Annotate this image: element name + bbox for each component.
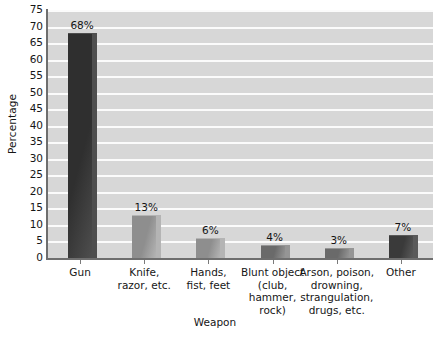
gridline	[48, 60, 433, 62]
gridline	[48, 159, 433, 161]
bar[interactable]	[325, 248, 349, 258]
gridline	[48, 109, 433, 111]
gridline	[48, 43, 433, 45]
x-axis-title: Weapon	[150, 316, 280, 328]
bar-side-face	[285, 250, 290, 258]
y-axis-tick-label: 0	[3, 252, 43, 263]
bar-top-face	[156, 215, 161, 220]
y-axis-tick-label: 25	[3, 169, 43, 180]
bar[interactable]	[132, 215, 156, 258]
gridline	[48, 192, 433, 194]
category-label-line: drugs, etc.	[291, 304, 383, 317]
category-label-line: drowning,	[291, 279, 383, 292]
gridline	[48, 76, 433, 78]
bar-top-face	[92, 33, 97, 38]
x-axis-tick-mark	[144, 260, 145, 264]
bar-value-label: 6%	[180, 225, 240, 236]
bar-value-label: 7%	[373, 222, 433, 233]
gridline	[48, 10, 433, 12]
y-axis-tick-label: 70	[3, 21, 43, 32]
bar-value-label: 4%	[245, 232, 305, 243]
x-axis-tick-mark	[273, 260, 274, 264]
bar-top-face	[220, 238, 225, 243]
y-axis-tick-label: 20	[3, 186, 43, 197]
x-axis-category-label: Other	[355, 266, 433, 279]
x-axis-tick-mark	[401, 260, 402, 264]
bar-side-face	[92, 38, 97, 258]
x-axis-tick-mark	[208, 260, 209, 264]
bar-front-face	[325, 248, 349, 258]
y-axis-tick-label: 35	[3, 136, 43, 147]
bar[interactable]	[68, 33, 92, 258]
bar-chart: Percentage 75706560555045403530252015105…	[0, 0, 433, 342]
bar-top-face	[413, 235, 418, 240]
category-label-line: Other	[355, 266, 433, 279]
bar-value-label: 3%	[309, 235, 369, 246]
gridline	[48, 241, 433, 243]
bar-front-face	[196, 238, 220, 258]
y-axis-tick-label: 45	[3, 103, 43, 114]
y-axis-tick-labels: 757065605550454035302520151050	[0, 0, 46, 342]
gridline	[48, 93, 433, 95]
bar-value-label: 68%	[52, 20, 112, 31]
y-axis-tick-label: 10	[3, 219, 43, 230]
gridline	[48, 175, 433, 177]
bar[interactable]	[196, 238, 220, 258]
x-axis-line	[46, 258, 433, 260]
y-axis-tick-label: 65	[3, 37, 43, 48]
y-axis-tick-label: 15	[3, 202, 43, 213]
bar[interactable]	[389, 235, 413, 258]
bar-top-face	[349, 248, 354, 253]
bar[interactable]	[261, 245, 285, 258]
gridline	[48, 142, 433, 144]
bar-front-face	[389, 235, 413, 258]
y-axis-tick-label: 30	[3, 153, 43, 164]
bar-value-label: 13%	[116, 202, 176, 213]
y-axis-line	[46, 9, 48, 260]
bar-front-face	[132, 215, 156, 258]
x-axis-tick-mark	[337, 260, 338, 264]
y-axis-tick-label: 40	[3, 120, 43, 131]
x-axis-tick-mark	[80, 260, 81, 264]
y-axis-tick-label: 5	[3, 235, 43, 246]
y-axis-tick-label: 55	[3, 70, 43, 81]
bar-top-face	[285, 245, 290, 250]
y-axis-tick-label: 50	[3, 87, 43, 98]
gridline	[48, 126, 433, 128]
bar-side-face	[413, 240, 418, 258]
y-axis-tick-label: 60	[3, 54, 43, 65]
bar-side-face	[156, 220, 161, 258]
y-axis-tick-label: 75	[3, 4, 43, 15]
bar-front-face	[68, 33, 92, 258]
plot-area	[48, 10, 433, 258]
bar-front-face	[261, 245, 285, 258]
bar-side-face	[220, 243, 225, 258]
category-label-line: strangulation,	[291, 291, 383, 304]
gridline	[48, 208, 433, 210]
